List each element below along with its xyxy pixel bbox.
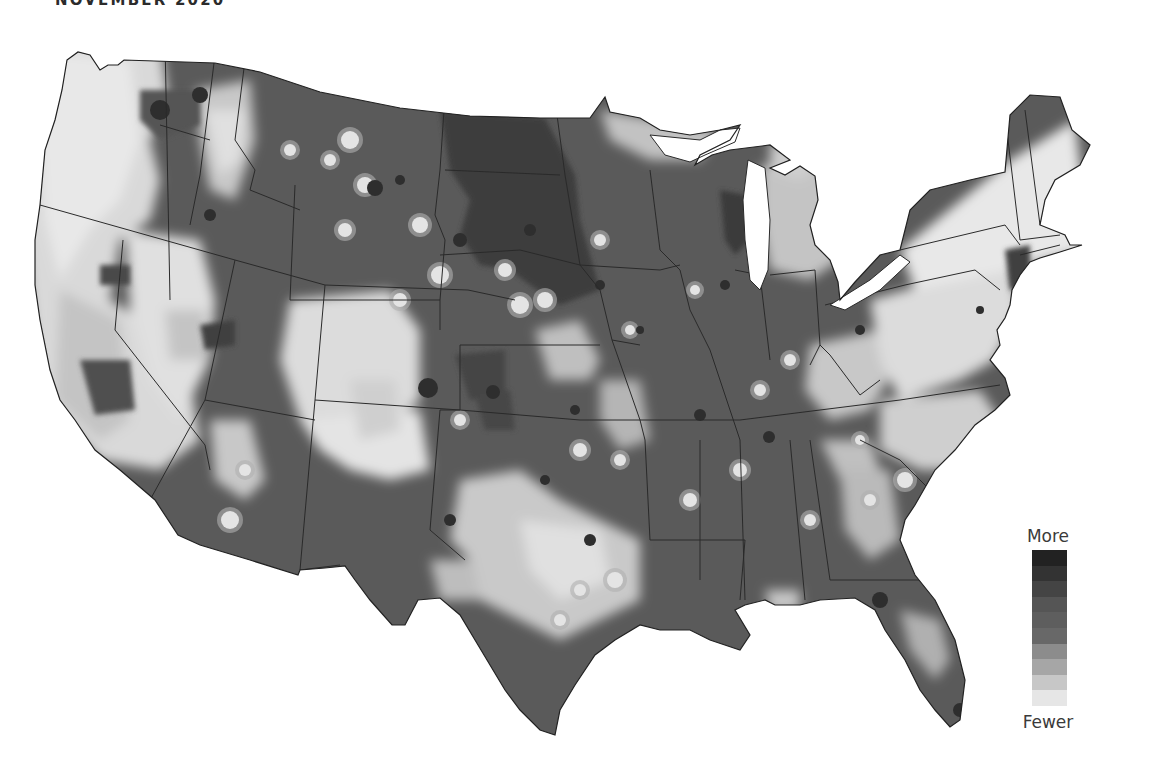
high-density-dot — [204, 209, 216, 221]
legend-step — [1032, 581, 1067, 597]
legend-step — [1032, 659, 1067, 675]
low-density-dot — [284, 144, 296, 156]
us-density-map — [0, 0, 1156, 770]
high-density-dot — [694, 409, 706, 421]
low-density-dot — [690, 285, 700, 295]
low-density-dot — [573, 443, 587, 457]
low-density-dot — [733, 463, 747, 477]
high-density-dot — [334, 574, 346, 586]
low-density-dot — [338, 223, 352, 237]
high-density-dot — [486, 385, 500, 399]
legend: More Fewer — [1022, 526, 1082, 732]
high-density-dot — [367, 180, 383, 196]
legend-color-scale — [1032, 550, 1067, 706]
low-density-dot — [614, 454, 626, 466]
high-density-dot — [855, 325, 865, 335]
high-density-dot — [418, 378, 438, 398]
low-density-dot — [864, 494, 876, 506]
low-density-dot — [784, 354, 796, 366]
legend-fewer-label: Fewer — [1020, 712, 1076, 732]
high-density-dot — [192, 87, 208, 103]
low-density-dot — [412, 217, 428, 233]
low-density-dot — [431, 266, 449, 284]
high-density-dot — [872, 592, 888, 608]
high-density-dot — [395, 175, 405, 185]
low-density-dot — [239, 464, 251, 476]
legend-more-label: More — [1020, 526, 1076, 546]
legend-step — [1032, 690, 1067, 706]
low-density-dot — [683, 493, 697, 507]
legend-step — [1032, 644, 1067, 660]
low-density-dot — [897, 472, 913, 488]
high-density-dot — [524, 224, 536, 236]
high-density-dot — [720, 280, 730, 290]
high-density-dot — [584, 534, 596, 546]
high-density-dot — [763, 431, 775, 443]
low-density-dot — [554, 614, 566, 626]
high-density-dot — [444, 514, 456, 526]
low-density-dot — [498, 263, 512, 277]
legend-step — [1032, 597, 1067, 613]
high-density-dot — [636, 326, 644, 334]
low-density-dot — [511, 296, 529, 314]
high-density-dot — [150, 100, 170, 120]
low-density-dot — [625, 325, 635, 335]
low-density-dot — [594, 234, 606, 246]
legend-step — [1032, 675, 1067, 691]
legend-step — [1032, 550, 1067, 566]
low-density-dot — [607, 572, 623, 588]
low-density-dot — [574, 584, 586, 596]
low-density-dot — [804, 514, 816, 526]
legend-step — [1032, 566, 1067, 582]
low-density-dot — [454, 414, 466, 426]
low-density-dot — [341, 131, 359, 149]
low-density-dot — [324, 154, 336, 166]
low-density-dot — [221, 511, 239, 529]
high-density-dot — [976, 306, 984, 314]
high-density-dot — [540, 475, 550, 485]
high-density-dot — [570, 405, 580, 415]
low-density-dot — [754, 384, 766, 396]
legend-step — [1032, 628, 1067, 644]
high-density-dot — [453, 233, 467, 247]
high-density-dot — [953, 703, 967, 717]
low-density-dot — [537, 292, 553, 308]
legend-step — [1032, 612, 1067, 628]
